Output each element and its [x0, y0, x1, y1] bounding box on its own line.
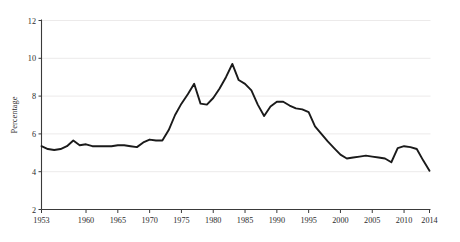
x-tick-label: 1980 [205, 216, 221, 225]
x-tick-label: 1953 [33, 216, 49, 225]
x-tick-label: 2000 [332, 216, 348, 225]
y-tick-label: 8 [32, 92, 36, 101]
line-chart: 24681012 1953196019651970197519801985199… [0, 0, 460, 242]
chart-figure: 24681012 1953196019651970197519801985199… [0, 0, 460, 242]
x-tick-label: 2014 [421, 216, 437, 225]
x-tick-label: 2010 [396, 216, 412, 225]
y-tick-label: 2 [32, 206, 36, 215]
y-tick-label: 4 [32, 168, 36, 177]
y-tick-label: 6 [32, 130, 36, 139]
x-tick-label: 1970 [141, 216, 157, 225]
y-tick-label: 10 [28, 54, 36, 63]
x-tick-label: 1975 [173, 216, 189, 225]
x-tick-label: 1985 [237, 216, 253, 225]
x-tick-label: 1995 [300, 216, 316, 225]
x-tick-label: 2005 [364, 216, 380, 225]
x-tick-label: 1990 [269, 216, 285, 225]
y-tick-label: 12 [28, 17, 36, 26]
chart-background [0, 0, 460, 242]
x-tick-label: 1960 [78, 216, 94, 225]
y-axis-title: Percentage [10, 96, 19, 133]
x-tick-label: 1965 [110, 216, 126, 225]
